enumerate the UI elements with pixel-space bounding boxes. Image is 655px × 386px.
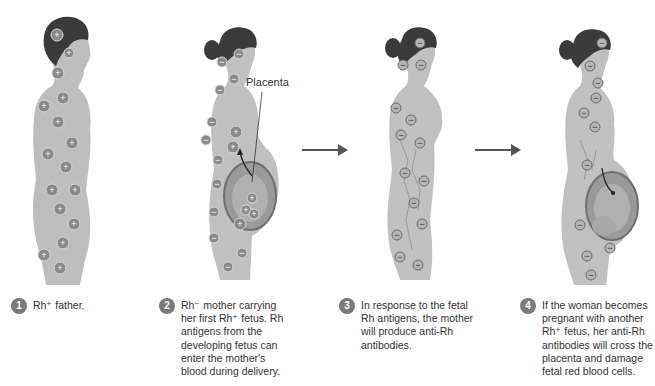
svg-text:−: − — [214, 179, 219, 189]
svg-text:−: − — [577, 220, 582, 230]
panel-antibody-production: −−− −−− −−− −−− −− — [360, 0, 480, 290]
svg-text:+: + — [57, 263, 62, 273]
svg-text:−: − — [398, 130, 403, 140]
svg-text:+: + — [55, 117, 60, 127]
step-number-badge: 1 — [11, 298, 27, 314]
caption-text: Rh⁺ father. — [33, 299, 85, 312]
svg-text:−: − — [592, 122, 597, 132]
svg-text:−: − — [417, 38, 422, 48]
svg-text:+: + — [41, 250, 46, 260]
svg-text:−: − — [203, 135, 208, 145]
svg-text:−: − — [231, 74, 236, 84]
svg-text:−: − — [417, 138, 422, 148]
svg-text:+: + — [66, 48, 71, 58]
svg-text:−: − — [408, 115, 413, 125]
svg-text:−: − — [581, 108, 586, 118]
caption-text: In response to the fetal Rh antigens, th… — [361, 299, 473, 352]
svg-text:−: − — [400, 60, 405, 70]
svg-text:+: + — [251, 209, 256, 219]
caption-text: Rh⁻ mother carrying her first Rh⁺ fetus.… — [181, 299, 283, 378]
svg-text:+: + — [41, 101, 46, 111]
svg-text:+: + — [54, 30, 59, 40]
svg-text:−: − — [211, 233, 216, 243]
caption-text: If the woman becomes pregnant with anoth… — [542, 299, 653, 378]
svg-text:−: − — [239, 248, 244, 258]
svg-text:−: − — [587, 61, 592, 71]
svg-text:−: − — [607, 243, 612, 253]
placenta-label: Placenta — [246, 76, 289, 88]
svg-text:−: − — [215, 155, 220, 165]
step-number-badge: 3 — [339, 298, 355, 314]
svg-text:−: − — [394, 230, 399, 240]
svg-text:−: − — [402, 168, 407, 178]
svg-text:−: − — [421, 176, 426, 186]
svg-text:−: − — [225, 262, 230, 272]
step-number-badge: 4 — [520, 298, 536, 314]
svg-text:+: + — [60, 238, 65, 248]
svg-text:−: − — [393, 103, 398, 113]
svg-text:−: − — [588, 270, 593, 280]
svg-text:+: + — [49, 185, 54, 195]
svg-text:+: + — [230, 142, 235, 152]
arrow-right-icon — [475, 144, 523, 156]
svg-text:+: + — [72, 185, 77, 195]
svg-text:+: + — [249, 193, 254, 203]
svg-text:−: − — [584, 160, 589, 170]
svg-text:−: − — [419, 219, 424, 229]
panel-father: +++ +++ +++ +++ ++++ — [0, 0, 120, 290]
svg-text:+: + — [63, 162, 68, 172]
svg-text:+: + — [57, 204, 62, 214]
svg-text:+: + — [45, 149, 50, 159]
mother-antibodies-figure: −−− −−− −−− −−− −− — [360, 0, 480, 290]
mother-first-pregnancy-figure: −−− −−− −−− −−− ++ ++++ — [180, 0, 310, 290]
svg-text:+: + — [69, 138, 74, 148]
step-number-badge: 2 — [159, 298, 175, 314]
father-figure: +++ +++ +++ +++ ++++ — [0, 0, 120, 290]
svg-text:−: − — [593, 93, 598, 103]
svg-text:−: − — [599, 38, 604, 48]
panel-first-pregnancy: −−− −−− −−− −−− ++ ++++ Placenta — [180, 0, 310, 290]
svg-text:−: − — [209, 117, 214, 127]
svg-text:−: − — [415, 260, 420, 270]
svg-text:−: − — [418, 60, 423, 70]
svg-text:−: − — [411, 198, 416, 208]
svg-text:−: − — [219, 57, 224, 67]
mother-second-pregnancy-figure: −−− −−− −−− −− — [540, 0, 655, 290]
svg-text:+: + — [237, 219, 242, 229]
panel-second-pregnancy: −−− −−− −−− −− — [540, 0, 655, 290]
svg-text:−: − — [595, 78, 600, 88]
svg-text:−: − — [397, 252, 402, 262]
svg-text:+: + — [243, 205, 248, 215]
svg-text:+: + — [71, 219, 76, 229]
svg-text:+: + — [233, 127, 238, 137]
svg-text:−: − — [211, 207, 216, 217]
arrow-right-icon — [302, 144, 350, 156]
svg-text:−: − — [584, 251, 589, 261]
svg-text:+: + — [60, 93, 65, 103]
svg-text:−: − — [217, 85, 222, 95]
svg-text:−: − — [236, 49, 241, 59]
svg-text:+: + — [55, 68, 60, 78]
